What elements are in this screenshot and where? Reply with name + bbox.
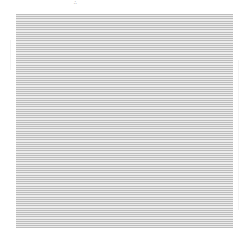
document-text-block — [16, 14, 233, 228]
page-marker: ∴ — [72, 1, 78, 5]
page-edge-right — [238, 60, 239, 210]
page-edge-left — [10, 40, 11, 70]
